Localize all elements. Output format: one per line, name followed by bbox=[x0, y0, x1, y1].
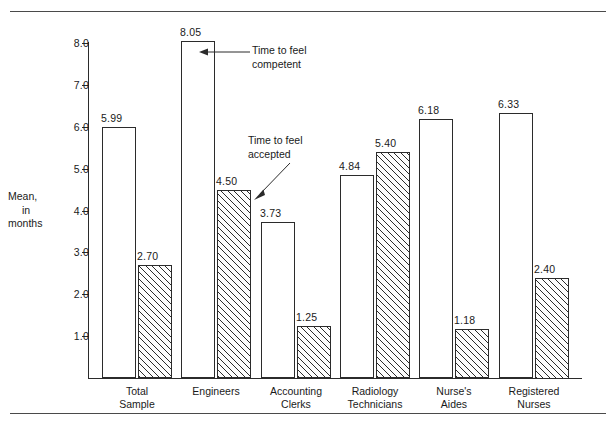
annotation-competent-arrow-icon bbox=[198, 44, 254, 64]
annotation-competent-line-1: Time to feel bbox=[252, 44, 306, 58]
bar-competent bbox=[261, 222, 295, 378]
annotation-competent-line-2: competent bbox=[252, 58, 306, 72]
bar-value-label: 1.25 bbox=[296, 312, 317, 323]
bar-value-label: 5.40 bbox=[375, 138, 396, 149]
bar-competent bbox=[340, 175, 374, 378]
bar-value-label: 8.05 bbox=[180, 27, 201, 38]
y-tick-label-text: 1.0 bbox=[55, 331, 89, 342]
bar-value-label: 3.73 bbox=[260, 208, 281, 219]
annotation-accepted-line-1: Time to feel bbox=[248, 134, 302, 148]
bar-competent bbox=[102, 127, 136, 378]
bar-accepted bbox=[376, 152, 410, 378]
x-category-label-line-1: Registered bbox=[475, 385, 593, 398]
bar-competent bbox=[419, 119, 453, 378]
y-tick-label-text: 8.0 bbox=[55, 38, 89, 49]
y-tick-label: 7.0 bbox=[40, 80, 89, 91]
bar-value-label: 5.99 bbox=[101, 113, 122, 124]
bar-accepted bbox=[535, 278, 569, 379]
annotation-competent: Time to feel competent bbox=[252, 44, 306, 71]
y-tick-label: 3.0 bbox=[40, 247, 89, 258]
y-tick-label-text: 5.0 bbox=[55, 164, 89, 175]
annotation-accepted-line-2: accepted bbox=[248, 148, 302, 162]
bar-value-label: 4.50 bbox=[216, 176, 237, 187]
y-tick-label-text: 3.0 bbox=[55, 247, 89, 258]
y-axis-title-line-1: Mean, bbox=[8, 190, 74, 204]
y-axis-title-line-3: months bbox=[8, 217, 74, 231]
x-category-label-line-2: Nurses bbox=[475, 398, 593, 411]
y-tick-label-text: 7.0 bbox=[55, 80, 89, 91]
x-category-label-line-2: Sample bbox=[78, 398, 196, 411]
y-axis-title: Mean, in months bbox=[8, 190, 74, 231]
bar-value-label: 6.18 bbox=[418, 105, 439, 116]
x-category-label: RegisteredNurses bbox=[475, 385, 593, 411]
annotation-accepted-arrow-icon bbox=[250, 160, 298, 204]
bar-accepted bbox=[217, 190, 251, 378]
figure: 1.02.03.04.05.06.07.08.0 Mean, in months… bbox=[0, 0, 613, 431]
bar-chart-plot: 1.02.03.04.05.06.07.08.0 Mean, in months… bbox=[0, 0, 613, 431]
y-tick-label: 2.0 bbox=[40, 289, 89, 300]
bar-value-label: 1.18 bbox=[454, 315, 475, 326]
y-tick-label: 1.0 bbox=[40, 331, 89, 342]
bar-value-label: 4.84 bbox=[339, 161, 360, 172]
bar-value-label: 2.40 bbox=[534, 264, 555, 275]
bar-value-label: 2.70 bbox=[137, 251, 158, 262]
bar-competent bbox=[181, 41, 215, 378]
bar-accepted bbox=[455, 329, 489, 378]
y-tick-label: 8.0 bbox=[40, 38, 89, 49]
y-tick-label-text: 6.0 bbox=[55, 122, 89, 133]
y-tick-label: 6.0 bbox=[40, 122, 89, 133]
bar-accepted bbox=[297, 326, 331, 378]
annotation-accepted: Time to feel accepted bbox=[248, 134, 302, 161]
bar-accepted bbox=[138, 265, 172, 378]
bar-competent bbox=[499, 113, 533, 378]
bar-value-label: 6.33 bbox=[498, 99, 519, 110]
x-axis-line bbox=[88, 378, 582, 379]
y-tick-label: 5.0 bbox=[40, 164, 89, 175]
y-tick-label-text: 2.0 bbox=[55, 289, 89, 300]
y-axis-title-line-2: in bbox=[8, 204, 74, 218]
